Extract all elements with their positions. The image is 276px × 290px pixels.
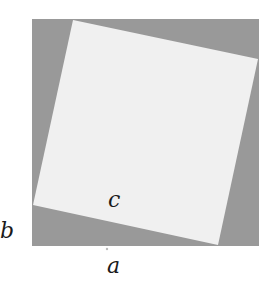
- inner-tilted-square: [33, 20, 258, 245]
- label-side-a: a: [107, 255, 120, 277]
- label-side-b: b: [0, 220, 14, 242]
- label-hypotenuse-c: c: [108, 189, 120, 211]
- tick-mark: [106, 248, 108, 250]
- pythagorean-diagram: [0, 0, 276, 290]
